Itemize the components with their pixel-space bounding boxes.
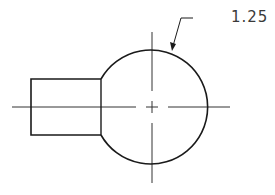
leader-line [173, 18, 193, 46]
arrowhead-icon [170, 42, 176, 51]
centerlines [12, 32, 230, 183]
radius-leader [170, 18, 193, 51]
dimension-label: 1.25 [231, 8, 268, 26]
technical-drawing [0, 0, 275, 195]
